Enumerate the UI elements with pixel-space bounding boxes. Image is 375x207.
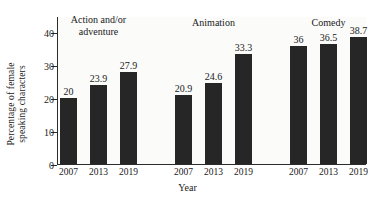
- bar: [350, 37, 367, 164]
- bar-value-label: 23.9: [81, 73, 116, 84]
- y-tick-label: 30: [44, 61, 54, 72]
- x-tick-label: 2007: [282, 167, 315, 177]
- x-tick-label: 2013: [312, 167, 345, 177]
- plot-area: 010203040 2023.927.920.924.633.33636.538…: [57, 17, 366, 165]
- bar: [235, 54, 252, 164]
- x-tick-label: 2019: [112, 167, 145, 177]
- y-axis-title-line1: Percentage of female: [6, 62, 17, 145]
- x-tick-label: 2019: [227, 167, 260, 177]
- group-title-3: Comedy: [270, 17, 375, 29]
- x-tick-label: 2019: [342, 167, 375, 177]
- bar: [90, 85, 107, 164]
- group-title-2: Animation: [155, 17, 272, 29]
- bar: [60, 98, 77, 164]
- bar: [290, 46, 307, 164]
- bar: [205, 83, 222, 164]
- group-title-1: Action and/oradventure: [40, 14, 157, 37]
- group-title-line1: Action and/or: [40, 14, 157, 26]
- y-axis-title: Percentage of female speaking characters: [0, 0, 34, 207]
- bar-value-label: 27.9: [111, 60, 146, 71]
- x-tick-label: 2013: [197, 167, 230, 177]
- bar: [120, 72, 137, 164]
- bar: [175, 95, 192, 164]
- bar: [320, 44, 337, 164]
- y-tick-label: 10: [44, 127, 54, 138]
- bar-value-label: 33.3: [226, 42, 261, 53]
- group-title-line2: adventure: [40, 26, 157, 38]
- group-title-line1: Comedy: [270, 17, 375, 29]
- x-tick-label: 2013: [82, 167, 115, 177]
- x-tick-label: 2007: [167, 167, 200, 177]
- bar-value-label: 20: [51, 86, 86, 97]
- x-tick-label: 2007: [52, 167, 85, 177]
- group-title-line1: Animation: [155, 17, 272, 29]
- bar-value-label: 24.6: [196, 71, 231, 82]
- bar-chart-figure: Percentage of female speaking characters…: [0, 0, 375, 207]
- x-axis-title: Year: [0, 182, 375, 193]
- y-axis-title-line2: speaking characters: [17, 62, 28, 145]
- bar-value-label: 20.9: [166, 83, 201, 94]
